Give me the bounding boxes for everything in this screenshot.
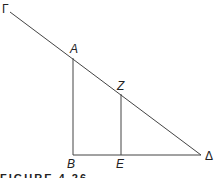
label-delta: Δ (205, 149, 213, 163)
figure-caption: FIGURE 4.26 (0, 172, 88, 178)
label-e: E (116, 157, 125, 171)
geometry-figure: Γ A Z B E Δ FIGURE 4.26 (0, 0, 220, 178)
hypotenuse-gamma-delta (10, 12, 201, 155)
label-b: B (67, 157, 75, 171)
label-a: A (69, 42, 78, 56)
label-z: Z (116, 79, 125, 93)
label-gamma: Γ (2, 2, 9, 16)
